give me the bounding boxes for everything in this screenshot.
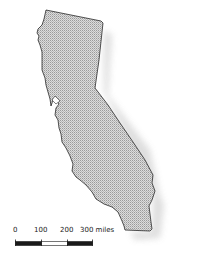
scale-label-0: 0 <box>13 227 17 234</box>
california-outline <box>37 10 155 231</box>
scale-bar <box>16 240 93 247</box>
scale-label-300-miles: 300 miles <box>80 227 114 234</box>
scale-segment-100-200 <box>42 242 68 246</box>
scale-segment-200-300 <box>68 242 93 246</box>
scale-label-100: 100 <box>34 227 47 234</box>
scale-segment-0-100 <box>16 242 42 246</box>
scale-label-200: 200 <box>60 227 73 234</box>
california-map <box>0 0 197 263</box>
